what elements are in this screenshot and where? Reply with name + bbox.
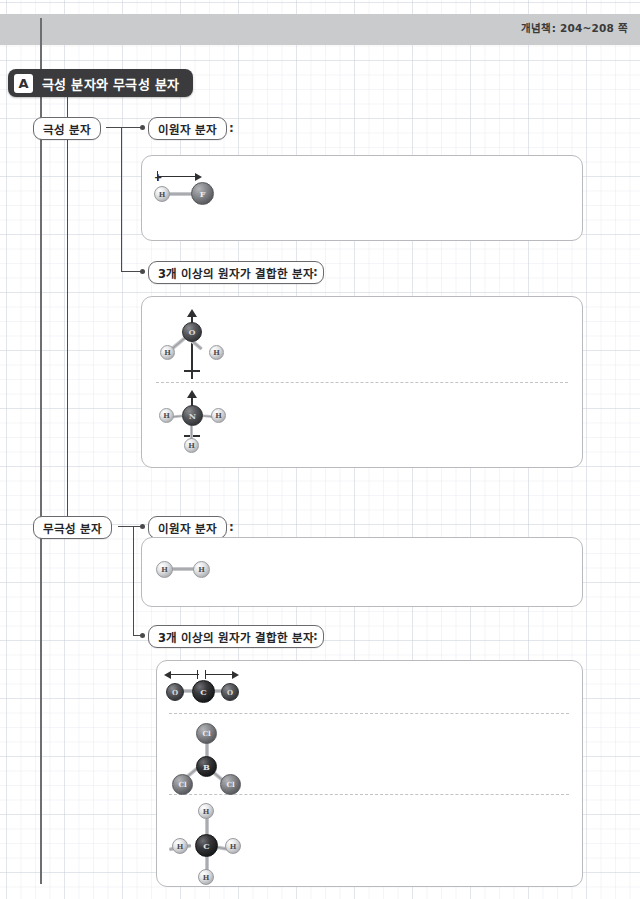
atom-o: O: [221, 683, 239, 701]
atom-h: H: [211, 408, 226, 423]
dipole-arrow-shaft-right: [205, 674, 234, 675]
answer-panel-polyatomic-polar[interactable]: O H H N H H H: [141, 296, 583, 468]
connector-b1-h: [106, 127, 143, 128]
left-margin-rule: [40, 18, 42, 884]
dipole-arrow-head: [187, 390, 197, 398]
atom-h-bottom: H: [198, 869, 214, 885]
worksheet-page: 개념책: 204~208 쪽 A 극성 분자와 무극성 분자 극성 분자 이원자…: [0, 0, 640, 899]
atom-h: H: [193, 561, 210, 578]
section-title-text: 극성 분자와 무극성 분자: [42, 74, 179, 93]
atom-h: H: [159, 408, 174, 423]
sublabel-polyatomic-polar[interactable]: 3개 이상의 원자가 결합한 분자: [148, 261, 324, 284]
dipole-arrow-shaft-left: [170, 674, 199, 675]
atom-cl-top: Cl: [196, 723, 217, 744]
atom-o: O: [182, 322, 202, 342]
colon-mark: :: [229, 121, 234, 135]
atom-cl-right: Cl: [220, 774, 241, 795]
answer-panel-diatomic-polar[interactable]: + H F: [141, 155, 583, 241]
branch-label-nonpolar[interactable]: 무극성 분자: [33, 516, 112, 539]
branch-label-polar[interactable]: 극성 분자: [33, 117, 101, 140]
connector-dot: [140, 633, 145, 638]
panel-divider: [156, 382, 568, 383]
atom-h-left: H: [172, 838, 188, 854]
page-reference-label: 개념책: 204~208 쪽: [521, 20, 628, 35]
section-badge: A: [14, 74, 33, 93]
atom-cl-left: Cl: [172, 774, 193, 795]
header-band: 개념책: 204~208 쪽: [0, 14, 640, 45]
dipole-cross-bar: [184, 370, 200, 372]
section-title: A 극성 분자와 무극성 분자: [8, 69, 193, 97]
sublabel-polyatomic-nonpolar[interactable]: 3개 이상의 원자가 결합한 분자: [148, 625, 324, 648]
atom-h: H: [184, 438, 199, 453]
answer-panel-polyatomic-nonpolar[interactable]: O C O Cl B Cl Cl H C H H H: [156, 660, 583, 887]
atom-h: H: [156, 561, 173, 578]
atom-f: F: [191, 182, 214, 205]
connector-dot: [140, 125, 145, 130]
atom-n: N: [182, 405, 203, 426]
atom-h-top: H: [198, 803, 214, 819]
connector-trunk: [67, 136, 68, 526]
colon-mark: :: [313, 629, 318, 643]
answer-panel-diatomic-nonpolar[interactable]: H H: [141, 537, 583, 607]
dipole-arrow-head: [187, 309, 197, 317]
atom-c: C: [195, 834, 218, 857]
atom-h: H: [160, 345, 175, 360]
connector-b1-v: [121, 127, 122, 272]
sublabel-diatomic-nonpolar[interactable]: 이원자 분자: [148, 516, 227, 539]
dipole-arrow-head-right: [232, 671, 239, 679]
panel-divider: [169, 713, 569, 714]
dipole-cross-bar-right: [205, 670, 206, 679]
connector-dot: [140, 269, 145, 274]
atom-h: H: [154, 186, 170, 202]
connector-dot: [140, 524, 145, 529]
atom-b: B: [196, 756, 217, 777]
atom-o: O: [166, 683, 184, 701]
colon-mark: :: [313, 265, 318, 279]
connector-b2-v: [133, 526, 134, 636]
dipole-arrow-shaft: [157, 176, 197, 177]
dipole-cross-bar-left: [197, 670, 198, 679]
sublabel-diatomic-polar[interactable]: 이원자 분자: [148, 117, 227, 140]
atom-h: H: [209, 345, 224, 360]
atom-c: C: [192, 680, 215, 703]
dipole-arrow-head-left: [164, 671, 171, 679]
colon-mark: :: [229, 520, 234, 534]
atom-h-right: H: [225, 838, 241, 854]
dipole-arrow-head: [195, 173, 202, 181]
